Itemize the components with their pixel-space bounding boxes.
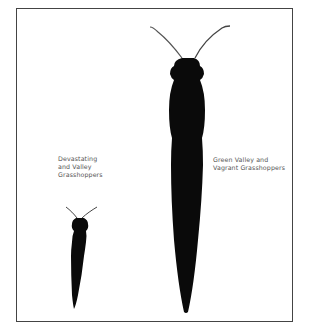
label-devastating-valley: Devastating and Valley Grasshoppers [58,155,103,179]
label-line: Grasshoppers [58,171,103,179]
small-antenna-right [82,207,97,218]
label-line: Vagrant Grasshoppers [213,164,285,172]
label-line: Devastating [58,155,103,163]
large-antenna-right [195,26,230,58]
label-line: and Valley [58,163,103,171]
small-body [71,218,88,309]
small-antenna-left [66,207,77,218]
large-body [169,58,205,313]
large-antenna-left [150,27,182,58]
small-grasshopper-silhouette [66,207,97,309]
label-line: Green Valley and [213,156,285,164]
label-green-valley-vagrant: Green Valley and Vagrant Grasshoppers [213,156,285,172]
